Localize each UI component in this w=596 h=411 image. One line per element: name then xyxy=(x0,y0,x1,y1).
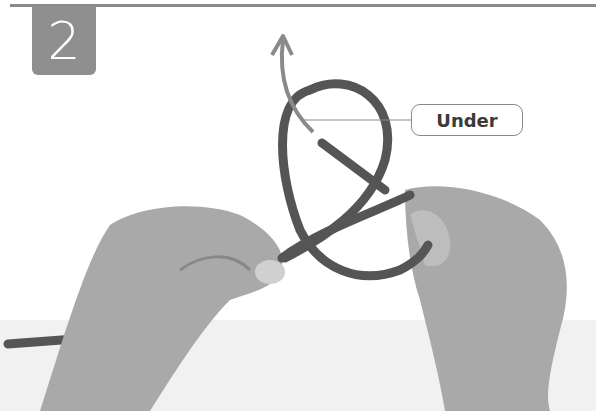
step-number-badge: 2 xyxy=(32,6,96,75)
under-callout-label: Under xyxy=(411,104,523,136)
